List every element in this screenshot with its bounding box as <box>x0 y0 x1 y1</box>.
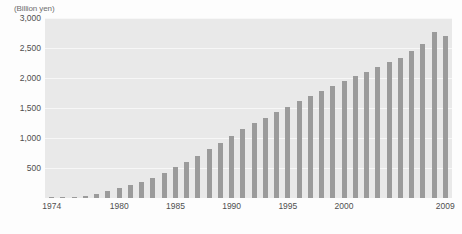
bar <box>195 156 200 198</box>
chart-figure: (Billion yen) 5001,0001,5002,0002,5003,0… <box>0 0 462 234</box>
bar <box>398 58 403 198</box>
plot-area <box>45 18 452 198</box>
bar <box>218 143 223 198</box>
bar <box>274 112 279 198</box>
bar <box>207 149 212 198</box>
bar <box>364 72 369 198</box>
bar <box>162 173 167 198</box>
bar <box>128 185 133 198</box>
y-axis-tick-label: 1,000 <box>0 133 41 143</box>
y-axis-tick-label: 1,500 <box>0 103 41 113</box>
bar <box>420 44 425 198</box>
bar <box>409 51 414 198</box>
x-axis-tick-label: 1974 <box>42 201 61 211</box>
y-axis-tick-label: 3,000 <box>0 13 41 23</box>
x-axis-tick-label: 1985 <box>166 201 185 211</box>
bar <box>240 129 245 198</box>
bar <box>285 107 290 198</box>
bar <box>330 86 335 198</box>
x-axis-tick-labels: 1974198019851990199520002009 <box>45 201 452 217</box>
bar <box>297 101 302 198</box>
bar <box>72 197 77 199</box>
bar-series <box>45 18 452 198</box>
bar <box>375 67 380 198</box>
x-axis-tick-label: 2000 <box>335 201 354 211</box>
bar <box>443 36 448 198</box>
bar <box>353 76 358 198</box>
bar <box>117 188 122 198</box>
bar <box>94 194 99 198</box>
y-axis-tick-labels: 5001,0001,5002,0002,5003,000 <box>0 18 41 198</box>
x-axis-tick-label: 1995 <box>278 201 297 211</box>
bar <box>150 178 155 198</box>
bar <box>432 32 437 198</box>
bar <box>49 197 54 198</box>
x-axis-tick-label: 1980 <box>110 201 129 211</box>
bar <box>319 91 324 198</box>
bar <box>229 136 234 198</box>
y-axis-tick-label: 500 <box>0 163 41 173</box>
x-axis-tick-label: 2009 <box>436 201 455 211</box>
x-axis-tick-label: 1990 <box>222 201 241 211</box>
y-axis-tick-label: 2,000 <box>0 73 41 83</box>
bar <box>60 197 65 198</box>
bar <box>105 191 110 198</box>
bar <box>184 162 189 198</box>
bar <box>263 118 268 198</box>
bar <box>387 62 392 198</box>
bar <box>308 96 313 198</box>
bar <box>252 123 257 198</box>
bar <box>342 81 347 198</box>
bar <box>83 196 88 198</box>
y-axis-unit-caption: (Billion yen) <box>14 4 55 13</box>
bar <box>173 167 178 198</box>
bar <box>139 182 144 198</box>
y-axis-tick-label: 2,500 <box>0 43 41 53</box>
